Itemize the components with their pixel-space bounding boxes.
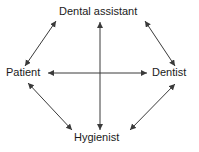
edge-patient-hygienist bbox=[28, 83, 72, 130]
edge-hygienist-dentist bbox=[130, 84, 175, 130]
edge-dental-assistant-dentist bbox=[145, 21, 175, 66]
node-label-hygienist: Hygienist bbox=[72, 131, 121, 143]
node-label-patient: Patient bbox=[4, 66, 42, 78]
relationship-diagram: Dental assistant Patient Dentist Hygieni… bbox=[0, 0, 199, 152]
edge-patient-dental-assistant bbox=[25, 21, 56, 66]
node-label-dentist: Dentist bbox=[150, 66, 188, 78]
node-label-dental-assistant: Dental assistant bbox=[57, 5, 139, 17]
